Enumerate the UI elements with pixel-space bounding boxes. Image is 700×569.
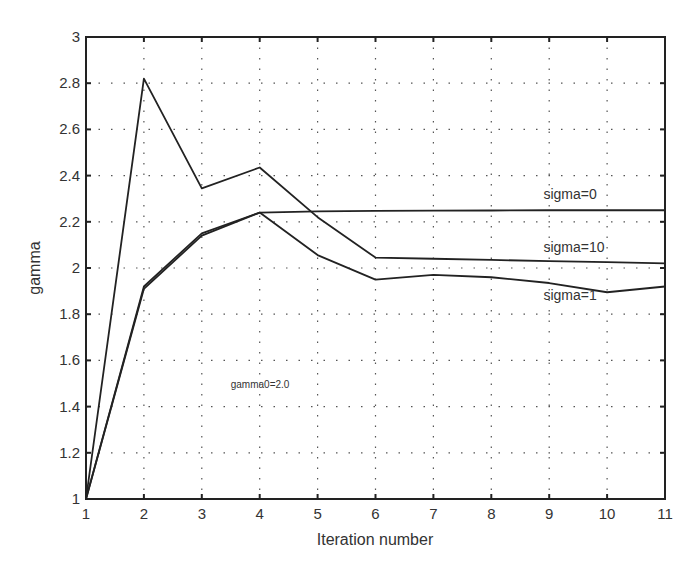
grid [86,37,665,499]
x-tick-label: 8 [487,505,495,522]
x-tick-label: 7 [429,505,437,522]
x-tick-label: 5 [313,505,321,522]
y-tick-label: 2.4 [59,167,80,184]
x-tick-label: 4 [256,505,264,522]
x-tick-label: 1 [82,505,90,522]
x-tick-label: 3 [198,505,206,522]
y-tick-label: 1.4 [59,398,80,415]
series-line-sigma-1 [86,213,665,499]
annotation-label: sigma=0 [543,186,597,202]
x-tick-label: 10 [599,505,616,522]
x-tick-label: 6 [371,505,379,522]
x-axis-label: Iteration number [317,531,434,548]
y-tick-label: 1.6 [59,351,80,368]
x-tick-label: 11 [657,505,673,522]
y-tick-label: 1.8 [59,305,80,322]
y-tick-label: 1.2 [59,444,80,461]
annotation-label: sigma=1 [543,287,597,303]
line-chart: 123456789101111.21.41.61.822.22.42.62.83… [0,0,700,569]
y-tick-label: 3 [72,28,80,45]
x-tick-label: 9 [545,505,553,522]
x-tick-label: 2 [140,505,148,522]
y-axis-label: gamma [26,241,43,294]
annotation-label: sigma=10 [543,239,604,255]
y-tick-label: 2.6 [59,120,80,137]
annotation-label: gamma0=2.0 [231,379,290,390]
y-tick-label: 2 [72,259,80,276]
y-tick-label: 2.2 [59,213,80,230]
y-tick-label: 2.8 [59,74,80,91]
y-tick-label: 1 [72,490,80,507]
